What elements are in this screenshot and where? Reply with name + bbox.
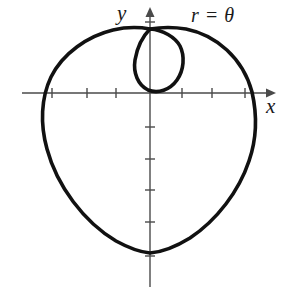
y-axis-arrowhead (146, 7, 155, 17)
axes-group (22, 7, 276, 287)
curve-group (42, 28, 255, 254)
polar-plot-figure: y x r = θ (0, 0, 283, 287)
plot-canvas (0, 0, 283, 287)
x-axis-label: x (266, 96, 275, 117)
polar-curve-outer-branch (42, 28, 255, 254)
equation-label: r = θ (191, 5, 235, 25)
polar-curve-inner-loop (135, 29, 184, 92)
y-axis-label: y (117, 3, 126, 24)
